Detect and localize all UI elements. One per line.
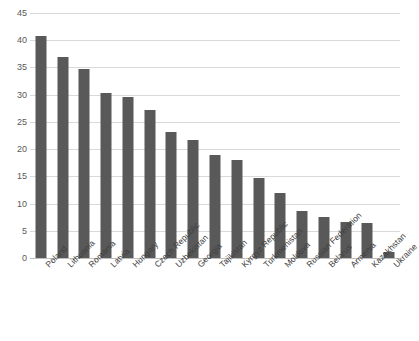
bar-slot — [226, 13, 248, 258]
bar-slot — [291, 13, 313, 258]
y-axis-tick-label: 0 — [3, 254, 27, 263]
x-axis-labels: PolandLithuaniaRomaniaLatviaHungaryCzech… — [30, 263, 400, 341]
bar-slot — [117, 13, 139, 258]
bar-slot — [139, 13, 161, 258]
bar[interactable] — [144, 110, 155, 258]
bar-slot — [248, 13, 270, 258]
bar-slot — [95, 13, 117, 258]
bar[interactable] — [122, 97, 133, 258]
bar[interactable] — [101, 93, 112, 258]
y-axis-tick-label: 30 — [3, 90, 27, 99]
y-axis-tick-label: 10 — [3, 199, 27, 208]
y-axis-tick-label: 45 — [3, 9, 27, 18]
bar-slot — [74, 13, 96, 258]
bar-slot — [161, 13, 183, 258]
y-axis-tick-label: 25 — [3, 117, 27, 126]
y-axis: 051015202530354045 — [0, 13, 27, 258]
bar-slot — [52, 13, 74, 258]
y-axis-tick-label: 20 — [3, 145, 27, 154]
bar-slot — [356, 13, 378, 258]
bar[interactable] — [57, 57, 68, 258]
y-axis-tick-label: 40 — [3, 36, 27, 45]
bar[interactable] — [79, 69, 90, 258]
bar-slot — [378, 13, 400, 258]
y-axis-tick-label: 15 — [3, 172, 27, 181]
bar-slot — [313, 13, 335, 258]
bar-slot — [204, 13, 226, 258]
y-axis-tick-label: 35 — [3, 63, 27, 72]
bar-slot — [30, 13, 52, 258]
bar[interactable] — [35, 36, 46, 258]
y-axis-tick-label: 5 — [3, 226, 27, 235]
